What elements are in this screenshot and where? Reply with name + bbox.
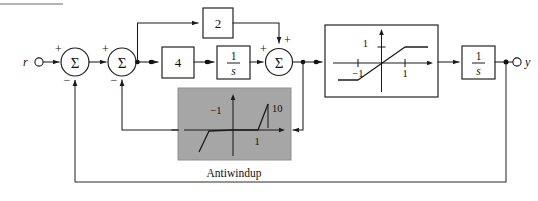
sum1-sign-left: + — [55, 42, 62, 56]
input-terminal-r: r — [23, 55, 43, 69]
summing-junction-3: Σ + + — [260, 33, 293, 76]
saturation-nonlinearity: 1 −1 1 — [325, 25, 438, 97]
saturation-y-tick-label: 1 — [363, 38, 368, 49]
gain-2-label: 2 — [215, 16, 222, 31]
sum1-sign-bottom: − — [64, 73, 71, 87]
sum2-sign-left: + — [102, 42, 109, 56]
diagram-canvas: r Σ + − Σ + − 2 — [0, 0, 538, 201]
plant-integrator-numerator: 1 — [476, 50, 482, 62]
output-terminal-y: y — [513, 55, 531, 69]
summing-junction-2: Σ + − — [102, 42, 136, 87]
junction-dot-output-takeoff — [504, 60, 509, 65]
block-diagram-figure: r Σ + − Σ + − 2 — [0, 0, 538, 201]
controller-integrator-block: 1 s — [217, 46, 250, 79]
sum3-sigma: Σ — [275, 55, 284, 71]
antiwindup-x-tick-negative: −1 — [210, 105, 221, 116]
input-label: r — [23, 55, 28, 69]
sum2-sigma: Σ — [118, 55, 127, 71]
antiwindup-slope-label: 10 — [272, 103, 283, 114]
sum3-sign-left: + — [260, 42, 267, 56]
summing-junction-1: Σ + − — [55, 42, 89, 87]
antiwindup-deadzone: −1 1 10 — [178, 88, 291, 160]
sum3-sign-top: + — [284, 33, 291, 47]
junction-dot-gain4-input — [149, 60, 154, 65]
plant-integrator-block: 1 s — [462, 46, 495, 79]
junction-dot-saturation-input — [314, 60, 319, 65]
antiwindup-caption: Antiwindup — [207, 167, 262, 180]
plant-integrator-denominator: s — [476, 65, 481, 77]
wire-antiwindup-to-sum2 — [122, 80, 178, 130]
antiwindup-x-tick-positive: 1 — [254, 136, 259, 147]
output-label: y — [524, 55, 531, 69]
saturation-x-tick-positive: 1 — [402, 68, 407, 79]
sum1-sigma: Σ — [71, 55, 80, 71]
gain-4-block: 4 — [162, 47, 194, 78]
wire-gain2-to-sum3 — [233, 23, 279, 43]
junction-dot-integrator-input — [205, 60, 210, 65]
gain-4-label: 4 — [175, 55, 182, 70]
wire-to-antiwindup-input — [293, 62, 303, 130]
sum2-sign-bottom: − — [111, 73, 118, 87]
controller-integrator-numerator: 1 — [231, 50, 237, 62]
saturation-x-tick-negative: −1 — [352, 68, 363, 79]
gain-2-block: 2 — [203, 8, 233, 38]
controller-integrator-denominator: s — [231, 65, 236, 77]
